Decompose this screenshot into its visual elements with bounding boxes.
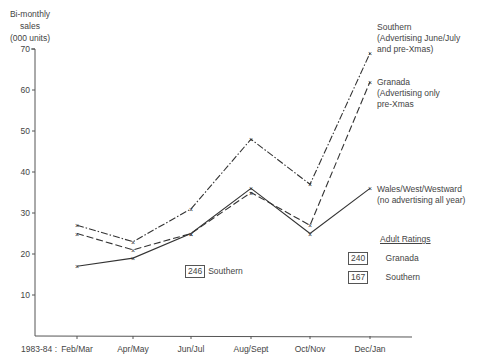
x-marker-icon: × (368, 50, 372, 57)
x-marker-icon: × (308, 231, 312, 238)
rating-row: 240 Granada (348, 252, 419, 265)
y-tick-label: 40 (21, 167, 31, 177)
y-tick-label: 20 (21, 249, 31, 259)
x-marker-icon: × (131, 239, 135, 246)
x-marker-icon: × (249, 136, 253, 143)
x-marker-icon: × (249, 185, 253, 192)
legend-wales-west-westward: Wales/West/Westward(no advertising all y… (377, 184, 465, 206)
rating-box: 167 (348, 271, 368, 284)
x-axis-prefix: 1983-84 : (21, 344, 57, 354)
x-marker-icon: × (75, 263, 79, 270)
x-marker-icon: × (131, 255, 135, 262)
x-marker-icon: × (75, 231, 79, 238)
x-tick-label: Apr/May (117, 344, 149, 354)
x-marker-icon: × (189, 206, 193, 213)
y-tick-label: 60 (21, 85, 31, 95)
x-tick-label: Jun/Jul (178, 344, 205, 354)
legend-southern: Southern(Advertising June/Julyand pre-Xm… (377, 22, 460, 55)
x-marker-icon: × (131, 247, 135, 254)
x-marker-icon: × (368, 185, 372, 192)
x-marker-icon: × (308, 181, 312, 188)
x-marker-icon: × (308, 222, 312, 229)
rating-region: Southern (383, 272, 420, 282)
rating-row: 167 Southern (348, 271, 420, 284)
legend-granada: Granada(Advertising onlypre-Xmas (377, 77, 440, 110)
x-axis (35, 336, 412, 337)
x-marker-icon: × (189, 231, 193, 238)
x-tick-label: Aug/Sept (234, 344, 270, 354)
y-tick-label: 70 (21, 44, 31, 54)
x-tick-label: Dec/Jan (354, 344, 385, 354)
adult-ratings-title: Adult Ratings (380, 234, 431, 245)
x-marker-icon: × (75, 222, 79, 229)
series-line (77, 53, 370, 242)
rating-box: 240 (348, 252, 368, 265)
y-tick-label: 30 (21, 208, 31, 218)
rating-region: Granada (383, 253, 418, 263)
x-tick-label: Feb/Mar (61, 344, 93, 354)
x-marker-icon: × (368, 79, 372, 86)
inline-rating: 246Southern (185, 265, 243, 278)
y-tick-label: 10 (21, 290, 31, 300)
y-tick-label: 50 (21, 126, 31, 136)
series-line (77, 82, 370, 250)
x-tick-label: Oct/Nov (295, 344, 326, 354)
series-line (77, 188, 370, 266)
